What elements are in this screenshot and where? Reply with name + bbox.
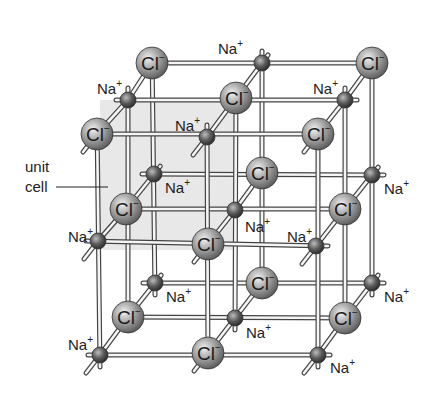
- sodium-ion: [147, 275, 163, 291]
- sodium-ion: [92, 347, 108, 363]
- sodium-label: Na+: [68, 334, 93, 353]
- sodium-ion: [364, 275, 380, 291]
- chloride-ion: Cl−: [302, 118, 334, 150]
- chloride-ion: Cl−: [136, 47, 168, 79]
- chloride-ion: Cl−: [246, 157, 278, 189]
- sodium-ion: [227, 202, 243, 218]
- unit-cell-label-line2: cell: [25, 178, 48, 195]
- sodium-ion: [364, 167, 380, 183]
- chloride-ion: Cl−: [192, 337, 224, 369]
- unit-cell-label-line1: unit: [25, 158, 50, 175]
- sodium-label: Na+: [166, 286, 191, 305]
- sodium-ion: [310, 347, 326, 363]
- sodium-ion: [227, 310, 243, 326]
- sodium-ion: [337, 92, 353, 108]
- chloride-ion: Cl−: [356, 47, 388, 79]
- chloride-ion: Cl−: [192, 228, 224, 260]
- sodium-label: Na+: [330, 357, 355, 376]
- chloride-ion: Cl−: [110, 193, 142, 225]
- chloride-ion: Cl−: [112, 301, 144, 333]
- sodium-label: Na+: [218, 38, 243, 57]
- sodium-label: Na+: [246, 322, 271, 341]
- sodium-label: Na+: [245, 216, 270, 235]
- sodium-ion: [308, 238, 324, 254]
- ions: Cl−Cl−Cl−Cl−Cl−Cl−Cl−Cl−Cl−Cl−Cl−Cl−Cl−: [81, 47, 388, 369]
- chloride-ion: Cl−: [246, 267, 278, 299]
- chloride-ion: Cl−: [81, 118, 113, 150]
- chloride-ion: Cl−: [329, 193, 361, 225]
- sodium-ion: [120, 92, 136, 108]
- sodium-label: Na+: [384, 286, 409, 305]
- sodium-ion: [199, 129, 215, 145]
- chloride-ion: Cl−: [329, 302, 361, 334]
- sodium-label: Na+: [287, 226, 312, 245]
- sodium-ion: [146, 166, 162, 182]
- lattice-canvas: Cl−Cl−Cl−Cl−Cl−Cl−Cl−Cl−Cl−Cl−Cl−Cl−Cl− …: [0, 0, 438, 402]
- sodium-label: Na+: [313, 78, 338, 97]
- chloride-ion: Cl−: [220, 82, 252, 114]
- sodium-label: Na+: [97, 78, 122, 97]
- sodium-label: Na+: [384, 178, 409, 197]
- nacl-lattice-diagram: Cl−Cl−Cl−Cl−Cl−Cl−Cl−Cl−Cl−Cl−Cl−Cl−Cl− …: [0, 0, 438, 402]
- sodium-ion: [254, 55, 270, 71]
